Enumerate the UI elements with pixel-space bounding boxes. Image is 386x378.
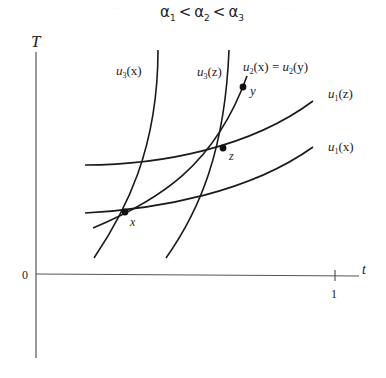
x-tick-label: 1 — [331, 287, 337, 301]
alpha-1: α — [160, 3, 170, 21]
curve-u1-z — [85, 101, 313, 165]
label-u3-x: u3(x) — [116, 63, 142, 80]
point-y-label: y — [248, 83, 256, 98]
curve-u3-x — [94, 50, 158, 258]
curve-u3-z — [166, 50, 229, 258]
label-u1-x: u1(x) — [328, 139, 354, 156]
point-z-label: z — [228, 149, 234, 163]
curve-u1-x — [85, 147, 313, 213]
diagram-title: α1<α2<α3 — [160, 3, 244, 23]
horizontal-axis — [36, 274, 359, 276]
curve-u2 — [93, 76, 247, 228]
svg-text:α1<α2<α3: α1<α2<α3 — [160, 3, 244, 23]
label-u1-z: u1(z) — [328, 86, 353, 103]
point-z-marker — [220, 145, 227, 152]
label-u2: u2(x) = u2(y) — [243, 59, 308, 76]
label-u3-z: u3(z) — [197, 64, 222, 81]
point-y-marker — [240, 84, 247, 91]
indifference-curve-diagram: α1<α2<α3 · · · · · · · · T t 0 1 x z y u… — [0, 0, 386, 378]
y-axis-label: T — [31, 32, 42, 51]
point-x-label: x — [129, 215, 136, 229]
x-axis-label: t — [362, 262, 367, 277]
faint-mark-left: · · · · — [108, 5, 121, 11]
point-x-marker — [122, 209, 129, 216]
origin-label: 0 — [22, 268, 28, 282]
faint-mark-right: · · · · — [280, 5, 293, 11]
